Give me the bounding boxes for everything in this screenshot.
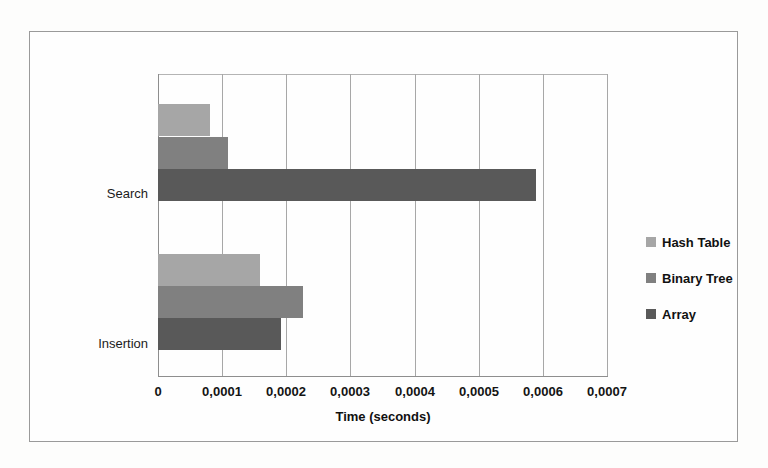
plot-bottom-border <box>158 376 608 377</box>
legend-label-binary-tree: Binary Tree <box>662 271 733 286</box>
legend-swatch-binary-tree <box>646 273 656 283</box>
tick-label-0.0003: 0,0003 <box>330 384 370 399</box>
tick-label-0.0006: 0,0006 <box>523 384 563 399</box>
legend-label-array: Array <box>662 307 696 322</box>
legend-item-array: Array <box>646 296 756 332</box>
legend-swatch-array <box>646 309 656 319</box>
gridline-0.0006 <box>543 74 544 377</box>
plot-area <box>158 74 607 377</box>
gridline-0.0003 <box>350 74 351 377</box>
bar-insertion-array <box>158 318 281 350</box>
legend-swatch-hash-table <box>646 237 656 247</box>
gridline-0.0002 <box>286 74 287 377</box>
tick-label-0.0004: 0,0004 <box>395 384 435 399</box>
legend-item-hash-table: Hash Table <box>646 224 756 260</box>
tick-label-0.0002: 0,0002 <box>266 384 306 399</box>
tick-label-0.0001: 0,0001 <box>202 384 242 399</box>
legend-label-hash-table: Hash Table <box>662 235 730 250</box>
value-axis-title: Time (seconds) <box>158 409 608 424</box>
gridline-0.0007 <box>607 74 608 377</box>
category-label-insertion: Insertion <box>98 336 148 351</box>
bar-search-array <box>158 169 536 201</box>
category-label-search: Search <box>107 186 148 201</box>
bar-insertion-hash-table <box>158 254 260 286</box>
category-axis-labels: Search Insertion <box>60 74 148 377</box>
legend-item-binary-tree: Binary Tree <box>646 260 756 296</box>
tick-label-0.0007: 0,0007 <box>587 384 627 399</box>
chart-legend: Hash Table Binary Tree Array <box>646 224 756 332</box>
value-axis-tick-labels: 0 0,0001 0,0002 0,0003 0,0004 0,0005 0,0… <box>158 384 608 404</box>
bar-insertion-binary-tree <box>158 286 303 318</box>
chart-frame: Search Insertion 0 0,000 <box>29 31 738 442</box>
bar-search-binary-tree <box>158 137 228 169</box>
tick-label-0: 0 <box>154 384 161 399</box>
bar-search-hash-table <box>158 104 210 136</box>
page-background: Search Insertion 0 0,000 <box>0 0 768 468</box>
tick-label-0.0005: 0,0005 <box>459 384 499 399</box>
gridline-0.0004 <box>415 74 416 377</box>
gridline-0.0005 <box>479 74 480 377</box>
